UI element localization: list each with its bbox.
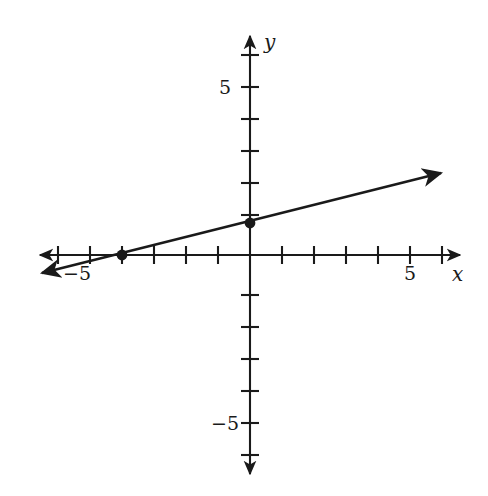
plotted-line	[42, 173, 441, 273]
x-axis-tick-label-neg5: −5	[63, 262, 91, 284]
point-x-intercept	[117, 250, 128, 261]
y-axis-tick-label-5: 5	[219, 76, 231, 98]
x-axis-name: x	[452, 262, 463, 286]
point-y-intercept	[245, 218, 256, 229]
y-axis-tick-label-neg5: −5	[211, 412, 239, 434]
x-axis-tick-label-5: 5	[404, 262, 416, 284]
coordinate-plane	[0, 0, 488, 496]
y-axis-name: y	[264, 30, 275, 54]
graph-figure: 5 −5 5 −5 y x	[0, 0, 488, 496]
